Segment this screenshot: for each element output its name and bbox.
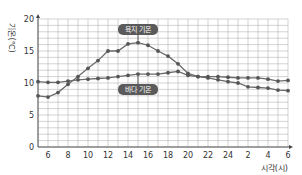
temperature-chart: 05101520 681012141618202224246 육지 기온바다 기…	[0, 0, 302, 175]
data-point	[276, 88, 280, 92]
y-axis-label: 기온(℃)	[7, 23, 16, 52]
data-point	[136, 72, 140, 76]
series	[36, 41, 290, 99]
data-point	[236, 81, 240, 85]
data-point	[86, 77, 90, 81]
data-point	[266, 86, 270, 90]
data-point	[256, 86, 260, 90]
data-point	[36, 94, 40, 98]
data-point	[106, 49, 110, 53]
data-point	[146, 72, 150, 76]
x-tick-label: 20	[183, 151, 193, 160]
x-tick-label: 10	[83, 151, 93, 160]
x-tick-label: 18	[163, 151, 173, 160]
data-point	[106, 76, 110, 80]
data-point	[56, 91, 60, 95]
data-point	[146, 43, 150, 47]
data-point	[126, 73, 130, 77]
x-tick-label: 12	[103, 151, 113, 160]
callout-label: 바다 기온	[125, 85, 152, 94]
data-point	[96, 59, 100, 63]
data-point	[236, 76, 240, 80]
y-axis-arrow-icon	[36, 14, 40, 18]
data-point	[286, 79, 290, 83]
y-tick-label: 10	[24, 79, 34, 88]
y-tick-label: 20	[24, 15, 34, 24]
data-point	[176, 70, 180, 74]
data-point	[166, 54, 170, 58]
data-point	[56, 80, 60, 84]
y-tick-label: 5	[29, 111, 34, 120]
callout: 바다 기온	[118, 76, 158, 95]
data-point	[96, 77, 100, 81]
callout-label: 육지 기온	[125, 25, 152, 34]
data-point	[196, 75, 200, 79]
data-point	[266, 77, 270, 81]
data-point	[246, 85, 250, 89]
data-point	[136, 41, 140, 45]
x-tick-label: 22	[203, 151, 213, 160]
data-point	[276, 79, 280, 83]
grid	[38, 19, 288, 147]
data-point	[116, 75, 120, 79]
y-tick-label: 15	[24, 47, 34, 56]
x-tick-label: 14	[123, 151, 133, 160]
x-axis-arrow-icon	[289, 145, 293, 149]
x-tick-label: 16	[143, 151, 153, 160]
data-point	[226, 80, 230, 84]
x-tick-label: 2	[245, 151, 250, 160]
x-tick-label: 24	[223, 151, 233, 160]
x-tick-label: 4	[265, 151, 270, 160]
data-point	[126, 42, 130, 46]
data-point	[286, 89, 290, 93]
data-point	[176, 62, 180, 66]
data-point	[166, 71, 170, 75]
data-point	[206, 75, 210, 79]
data-point	[36, 80, 40, 84]
data-point	[186, 73, 190, 77]
y-tick-labels: 05101520	[24, 15, 34, 152]
data-point	[156, 49, 160, 53]
data-point	[116, 49, 120, 53]
axes	[36, 14, 293, 149]
data-point	[76, 78, 80, 82]
data-point	[46, 95, 50, 99]
data-point	[46, 80, 50, 84]
data-point	[86, 66, 90, 70]
series-land	[36, 41, 290, 99]
data-point	[226, 75, 230, 79]
x-axis-label: 시각(시)	[261, 163, 288, 173]
data-point	[156, 72, 160, 76]
x-tick-label: 8	[65, 151, 70, 160]
data-point	[246, 76, 250, 80]
y-tick-label: 0	[29, 143, 34, 152]
x-tick-labels: 681012141618202224246	[45, 151, 290, 160]
x-tick-label: 6	[285, 151, 290, 160]
series-line	[38, 71, 288, 82]
series-sea	[36, 70, 290, 85]
x-tick-label: 6	[45, 151, 50, 160]
data-point	[216, 75, 220, 79]
data-point	[66, 79, 70, 83]
data-point	[256, 76, 260, 80]
